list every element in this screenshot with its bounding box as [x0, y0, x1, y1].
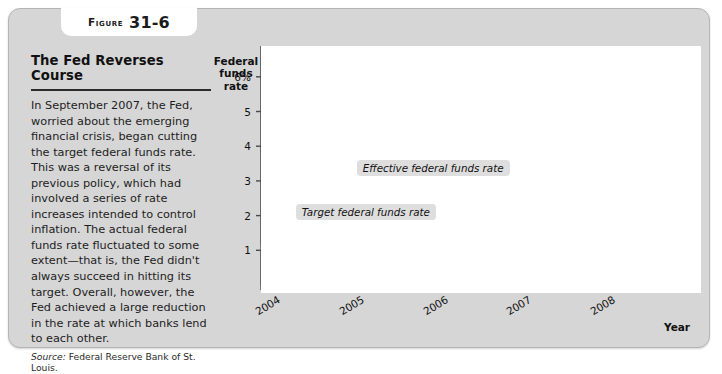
target-rate-label: Target federal funds rate	[296, 204, 436, 220]
x-tick-label: 2004	[253, 293, 282, 317]
figure-panel: Figure 31-6 The Fed Reverses Course In S…	[8, 8, 710, 348]
figure-body-text: In September 2007, the Fed, worried abou…	[31, 98, 213, 347]
figure-number-badge: Figure 31-6	[61, 8, 197, 36]
x-tick-label: 2005	[337, 293, 366, 317]
y-tick-label: 5	[244, 106, 251, 118]
source-credit: Source: Federal Reserve Bank of St. Loui…	[31, 351, 213, 374]
x-tick-label: 2007	[504, 293, 533, 317]
chart-plot-area: Effective federal funds rateTarget feder…	[253, 46, 701, 293]
y-tick-label: 1	[244, 244, 251, 256]
y-axis-tick-labels: 123456%	[207, 46, 251, 301]
y-tick-label: 4	[244, 140, 251, 152]
figure-word: Figure	[88, 16, 123, 28]
y-tick-label: 6%	[234, 71, 251, 83]
source-label: Source:	[31, 351, 66, 362]
figure-number: 31-6	[129, 13, 170, 32]
x-tick-label: 2006	[421, 293, 450, 317]
y-tick-label: 2	[244, 210, 251, 222]
x-tick-label: 2008	[588, 293, 617, 317]
x-axis-tick-labels: 20042005200620072008	[253, 305, 713, 345]
y-tick-label: 3	[244, 175, 251, 187]
figure-headline: The Fed Reverses Course	[31, 53, 213, 83]
effective-rate-label: Effective federal funds rate	[357, 160, 510, 176]
caption-column: The Fed Reverses Course In September 200…	[31, 53, 213, 374]
headline-divider	[31, 89, 211, 91]
x-axis-title: Year	[664, 321, 690, 333]
